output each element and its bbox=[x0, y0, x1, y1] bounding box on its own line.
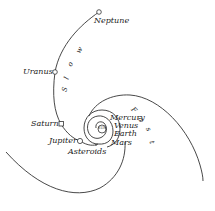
planet-label-saturn: Saturn bbox=[31, 120, 59, 128]
asteroids-marker bbox=[95, 144, 97, 146]
uranus-marker bbox=[53, 70, 58, 75]
neptune-marker bbox=[97, 10, 102, 15]
lower-arm-curve bbox=[6, 142, 125, 193]
planet-label-asteroids: Asteroids bbox=[68, 148, 106, 156]
sun-label: SUN bbox=[98, 127, 106, 131]
jupiter-marker bbox=[77, 138, 82, 143]
spiral-paths bbox=[0, 0, 215, 211]
planet-label-mars: Mars bbox=[111, 139, 132, 147]
planet-label-uranus: Uranus bbox=[23, 68, 53, 76]
planet-label-neptune: Neptune bbox=[94, 17, 129, 25]
solar-system-spiral-diagram: SUN Neptune Uranus Saturn Jupiter Astero… bbox=[0, 0, 215, 211]
planet-label-earth: Earth bbox=[114, 130, 137, 138]
planet-label-jupiter: Jupiter bbox=[49, 137, 77, 145]
saturn-marker bbox=[59, 122, 64, 127]
fast-arm-curve bbox=[89, 95, 203, 181]
